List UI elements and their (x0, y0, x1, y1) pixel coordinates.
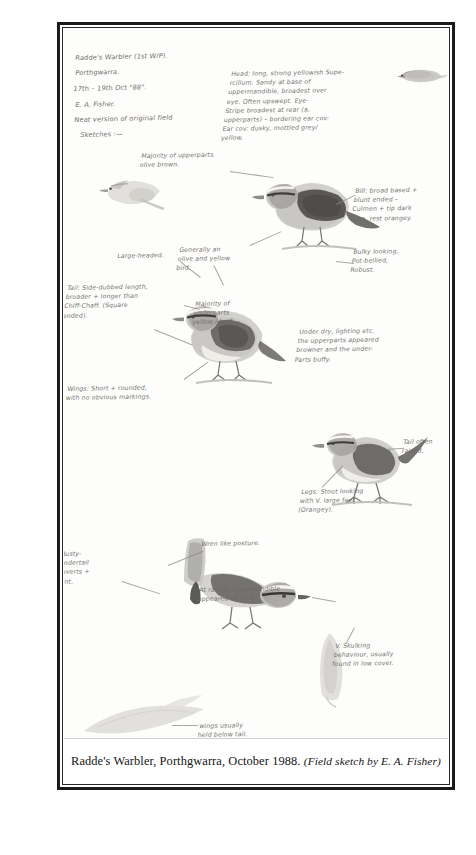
annotation-large-headed: Large-headed. (117, 250, 165, 260)
annotation-rusty-vent: Rusty- undertail coverts + vent. (64, 548, 118, 586)
annotation-head-description: Head: long, strong yellowish Supe- rcili… (220, 67, 364, 143)
sketch-sheet: Radde's Warbler (1st W/P). Porthgwarra. … (64, 29, 448, 783)
caption-credit: (Field sketch by E. A. Fisher) (304, 755, 441, 767)
annotation-wings-below-tail: wings usually held below tail. (197, 719, 292, 739)
sketch-bird-top-right-flight (391, 63, 448, 91)
annotation-wings: Wings: Short + rounded, with no obvious … (65, 381, 220, 402)
annotation-upperparts: Majority of upperparts olive brown. (139, 149, 252, 169)
annotation-tail: Tail: Side-dubbed length, broader + long… (64, 281, 180, 320)
page-root: Radde's Warbler (1st W/P). Porthgwarra. … (0, 0, 476, 855)
leader-wings-below-tail (172, 725, 198, 726)
annotation-underparts: Majority of underparts yellow / buff. (192, 298, 273, 327)
header-line-3: 17th – 19th Oct "88". (73, 82, 148, 95)
header-line-1: Radde's Warbler (1st W/P). (75, 51, 169, 64)
caption-main: Radde's Warbler, Porthgwarra, October 19… (71, 754, 301, 768)
annotation-bill: Bill: broad based + blunt ended – Culmen… (350, 184, 448, 222)
header-line-5: Neat version of original field (74, 113, 174, 126)
sketch-bird-left-profile-1 (94, 169, 166, 215)
annotation-belly: Bulky looking, Pot-bellied, Robust. (350, 245, 441, 274)
annotation-tail-raised: Tail often raised. (401, 436, 448, 455)
annotation-skulking: V. Skulking behaviour, usually found in … (332, 639, 437, 668)
header-line-6: Sketches :— (80, 129, 124, 141)
header-line-4: E. A. Fisher. (75, 99, 117, 111)
annotation-legs: Legs: Stout looking with V. large feet (… (298, 485, 413, 515)
annotation-wren-posture: Wren like posture. (201, 538, 261, 548)
header-line-2: Porthgwarra. (75, 67, 121, 79)
caption: Radde's Warbler, Porthgwarra, October 19… (71, 754, 441, 769)
annotation-orange-mandible: At range, uppermandible appeared all dar… (197, 583, 322, 604)
annotation-lighting: Under dry, lighting etc. the upperparts … (294, 325, 416, 364)
caption-band: Radde's Warbler, Porthgwarra, October 19… (64, 738, 448, 783)
